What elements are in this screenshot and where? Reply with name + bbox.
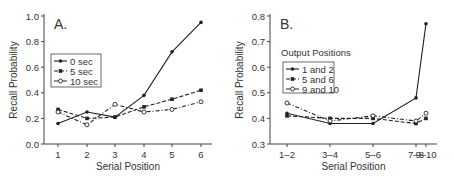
y-tick-label: 0.4 [26,87,39,98]
y-axis-label: Recall Probability [234,41,245,118]
marker-filled-circle [59,59,63,63]
y-tick-label: 0.3 [252,139,265,150]
marker-filled-square [170,97,174,101]
marker-filled-square [199,88,203,92]
x-tick-label: 1–2 [279,149,295,160]
figure: 0.00.20.40.60.81.0123456Serial PositionR… [0,0,454,177]
marker-filled-square [424,117,428,121]
marker-filled-circle [85,110,89,114]
series-line-1 [287,116,426,124]
y-axis-label: Recall Probability [8,41,19,118]
x-tick-label: 4 [141,149,146,160]
legend: 0 sec5 sec10 sec [51,54,101,87]
marker-open-circle [328,119,332,123]
x-tick-label: 3–4 [322,149,338,160]
marker-filled-circle [414,96,418,100]
x-tick-label: 2 [84,149,89,160]
marker-open-circle [371,114,375,118]
marker-open-circle [56,110,60,114]
x-tick-label: 1 [55,149,60,160]
marker-open-circle [285,101,289,105]
y-tick-label: 0.6 [252,62,265,73]
y-tick-label: 1.0 [26,11,39,22]
marker-filled-circle [371,122,375,126]
x-axis-label: Serial Position [322,161,386,172]
y-tick-label: 0.0 [26,139,39,150]
marker-filled-circle [142,94,146,98]
x-tick-label: 3 [112,149,117,160]
marker-filled-circle [291,67,295,71]
marker-open-circle [142,110,146,114]
series-line-1 [58,90,201,118]
marker-filled-circle [170,50,174,54]
legend-label: 9 and 10 [302,84,339,95]
panel-label: B. [280,16,293,32]
legend-label: 10 sec [70,76,98,87]
marker-open-circle [424,111,428,115]
marker-open-circle [85,123,89,127]
x-tick-label: 5 [169,149,174,160]
y-tick-label: 0.8 [252,11,265,22]
chart-panel-b: 0.30.40.50.60.70.81–23–45–67–89–10Serial… [234,11,437,173]
marker-filled-square [291,77,295,81]
x-tick-label: 6 [198,149,203,160]
legend: Output Positions1 and 25 and 69 and 10 [281,47,351,95]
marker-filled-circle [424,22,428,26]
y-tick-label: 0.7 [252,36,265,47]
marker-filled-square [59,69,63,73]
marker-filled-circle [199,21,203,25]
marker-filled-circle [56,122,60,126]
x-tick-label: 5–6 [365,149,381,160]
marker-open-circle [199,100,203,104]
chart-panel-a: 0.00.20.40.60.81.0123456Serial PositionR… [8,11,212,173]
y-tick-label: 0.8 [26,36,39,47]
y-tick-label: 0.2 [26,113,39,124]
x-tick-label: 9–10 [415,149,436,160]
series-line-2 [58,102,201,125]
marker-filled-square [113,115,117,119]
marker-filled-square [285,114,289,118]
marker-open-circle [291,87,295,91]
marker-open-circle [170,107,174,111]
y-tick-label: 0.5 [252,87,265,98]
x-axis-label: Serial Position [96,161,160,172]
marker-filled-square [142,105,146,109]
marker-open-circle [113,102,117,106]
marker-open-circle [59,79,63,83]
legend-title: Output Positions [281,47,351,58]
marker-open-circle [414,119,418,123]
marker-filled-square [85,117,89,121]
y-tick-label: 0.6 [26,62,39,73]
panel-label: A. [54,16,67,32]
y-tick-label: 0.4 [252,113,265,124]
